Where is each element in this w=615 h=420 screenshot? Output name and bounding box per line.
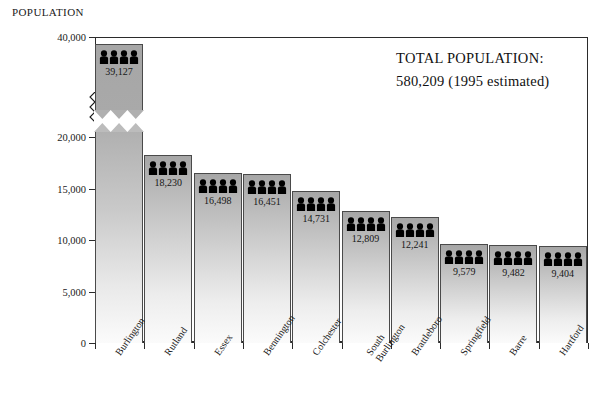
x-tick-mark: [144, 343, 145, 349]
bar-value-label: 9,404: [551, 268, 574, 279]
bar-essex: 16,498: [194, 173, 242, 343]
bar-value-label: 12,241: [401, 239, 429, 250]
x-tick-mark: [95, 343, 96, 349]
x-tick-mark: [539, 343, 540, 349]
total-population-heading: TOTAL POPULATION:: [396, 50, 549, 67]
bar-value-label: 14,731: [302, 213, 330, 224]
bar-value-label: 9,579: [453, 266, 476, 277]
x-tick-mark: [342, 343, 343, 349]
bar-value-label: 9,482: [502, 267, 525, 278]
bar-value-label: 39,127: [105, 66, 133, 77]
bar-value-label: 16,451: [253, 196, 281, 207]
x-tick-mark: [243, 343, 244, 349]
bar-burlington: 39,127: [95, 44, 143, 343]
chart-root: POPULATION 40,00020,00015,00010,0005,000…: [0, 0, 615, 420]
bar-barre: 9,482: [489, 245, 537, 343]
x-tick-mark: [489, 343, 490, 349]
x-tick-mark: [440, 343, 441, 349]
bar-value-label: 16,498: [204, 195, 232, 206]
total-population-value: 580,209 (1995 estimated): [396, 73, 549, 90]
bar-value-label: 12,809: [352, 233, 380, 244]
bar-rutland: 18,230: [144, 155, 192, 343]
x-tick-mark: [292, 343, 293, 349]
total-population-callout: TOTAL POPULATION: 580,209 (1995 estimate…: [396, 50, 549, 90]
x-tick-mark: [194, 343, 195, 349]
bar-value-label: 18,230: [155, 177, 183, 188]
x-tick-mark: [588, 343, 589, 349]
